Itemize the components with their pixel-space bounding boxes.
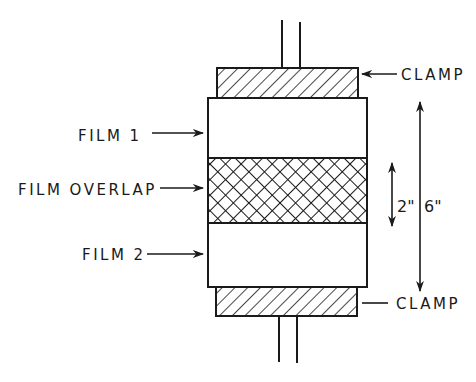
specimen-diagram: FILM 1 FILM OVERLAP FILM 2 CLAMP CLAMP 2… xyxy=(0,0,476,382)
top-clamp xyxy=(217,68,358,98)
film-2 xyxy=(208,223,367,287)
film-1 xyxy=(208,98,367,158)
bottom-rods xyxy=(279,316,297,363)
overlap-dimension-label: 2" xyxy=(397,197,415,216)
overlap-label: FILM OVERLAP xyxy=(18,181,157,199)
total-dimension-label: 6" xyxy=(424,197,442,216)
film1-label: FILM 1 xyxy=(78,127,142,145)
bottom-clamp-label: CLAMP xyxy=(396,295,460,313)
bottom-clamp xyxy=(216,287,357,316)
top-rods xyxy=(282,20,300,68)
film-overlap xyxy=(208,158,367,223)
top-clamp-label: CLAMP xyxy=(401,66,465,84)
film2-label: FILM 2 xyxy=(82,246,146,264)
